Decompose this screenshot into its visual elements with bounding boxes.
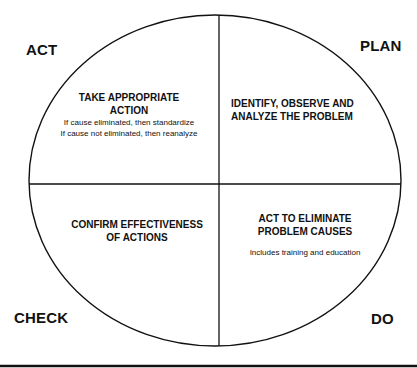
corner-label-plan: PLAN	[360, 37, 402, 54]
corner-label-check: CHECK	[14, 309, 68, 326]
quadrant-check: CONFIRM EFFECTIVENESS OF ACTIONS	[62, 218, 212, 244]
check-title-line2: OF ACTIONS	[62, 231, 212, 244]
quadrant-do: ACT TO ELIMINATE PROBLEM CAUSES Includes…	[230, 212, 380, 258]
quadrant-act: TAKE APPROPRIATE ACTION If cause elimina…	[44, 91, 214, 139]
act-title-line2: ACTION	[44, 104, 214, 117]
corner-label-act: ACT	[26, 41, 57, 58]
check-title-line1: CONFIRM EFFECTIVENESS	[62, 218, 212, 231]
do-title-line1: ACT TO ELIMINATE	[230, 212, 380, 225]
corner-label-do: DO	[371, 310, 394, 327]
do-title-line2: PROBLEM CAUSES	[230, 225, 380, 238]
quadrant-plan: IDENTIFY, OBSERVE AND ANALYZE THE PROBLE…	[231, 97, 354, 123]
do-detail-line1: Includes training and education	[230, 247, 380, 258]
plan-title-line1: IDENTIFY, OBSERVE AND	[231, 97, 354, 110]
plan-title-line2: ANALYZE THE PROBLEM	[231, 110, 354, 123]
act-detail-line2: If cause not eliminated, then reanalyze	[44, 128, 214, 139]
cycle-ellipse	[29, 15, 401, 346]
act-detail-line1: If cause eliminated, then standardize	[44, 117, 214, 128]
act-title-line1: TAKE APPROPRIATE	[44, 91, 214, 104]
